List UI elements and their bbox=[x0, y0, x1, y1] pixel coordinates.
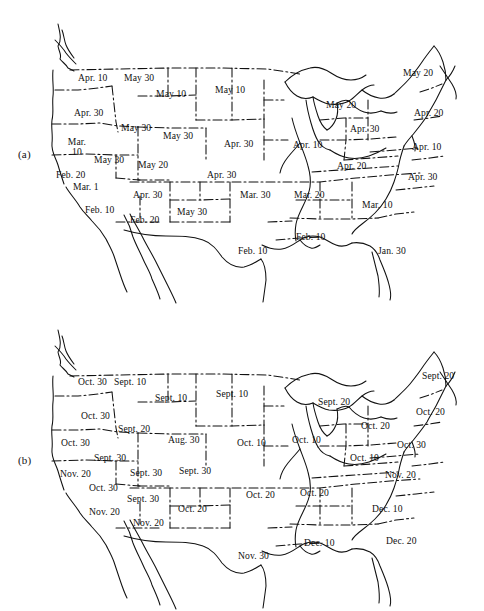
frost-date-label: Sept. 30 bbox=[127, 494, 159, 504]
frost-date-label: Sept. 20 bbox=[118, 424, 150, 434]
frost-date-label: Feb. 10 bbox=[85, 205, 114, 215]
frost-date-label: Apr. 30 bbox=[408, 172, 437, 182]
frost-date-label: May 30 bbox=[121, 123, 151, 133]
frost-date-label: Apr. 10 bbox=[78, 73, 107, 83]
frost-date-label: Apr. 10 bbox=[293, 140, 322, 150]
frost-date-label: Oct. 10 bbox=[350, 453, 379, 463]
frost-date-label: Dec. 10 bbox=[304, 538, 335, 548]
frost-date-label: May 10 bbox=[215, 85, 245, 95]
frost-date-label: Mar. 10 bbox=[362, 200, 393, 210]
frost-date-label: Apr. 30 bbox=[74, 108, 103, 118]
frost-date-label: Mar. 10 bbox=[64, 137, 90, 157]
frost-date-label: Apr. 30 bbox=[224, 139, 253, 149]
frost-date-label: Oct. 30 bbox=[78, 377, 107, 387]
frost-date-label: Feb. 10 bbox=[296, 232, 325, 242]
frost-date-label: Apr. 30 bbox=[207, 170, 236, 180]
frost-date-label: Sept. 10 bbox=[114, 377, 146, 387]
frost-date-label: Sept. 30 bbox=[179, 466, 211, 476]
frost-date-label: Apr. 20 bbox=[337, 161, 366, 171]
frost-date-label: Apr. 10 bbox=[412, 142, 441, 152]
frost-date-label: May 20 bbox=[403, 68, 433, 78]
frost-date-label: Mar. 1 bbox=[73, 182, 99, 192]
frost-date-label: Oct. 20 bbox=[300, 488, 329, 498]
map-panel-a: (a) bbox=[0, 0, 484, 305]
frost-date-label: Oct. 20 bbox=[416, 407, 445, 417]
frost-date-label: Feb. 20 bbox=[56, 170, 85, 180]
frost-date-label: Sept. 20 bbox=[422, 371, 454, 381]
frost-date-label: Jan. 30 bbox=[378, 246, 406, 256]
frost-date-label: May 10 bbox=[156, 89, 186, 99]
map-outline-b bbox=[0, 306, 484, 611]
frost-date-label: Sept. 10 bbox=[216, 389, 248, 399]
frost-date-label: Apr. 30 bbox=[133, 190, 162, 200]
frost-date-label: Oct. 20 bbox=[178, 504, 207, 514]
frost-date-label: Feb. 10 bbox=[238, 246, 267, 256]
frost-date-label: Oct. 10 bbox=[292, 435, 321, 445]
frost-date-label: Oct. 20 bbox=[361, 421, 390, 431]
frost-date-label: May 30 bbox=[124, 73, 154, 83]
frost-date-label: Feb. 20 bbox=[130, 215, 159, 225]
frost-date-label: Sept. 20 bbox=[318, 397, 350, 407]
frost-date-label: May 30 bbox=[177, 207, 207, 217]
frost-date-label: Mar. 30 bbox=[240, 190, 271, 200]
frost-date-label: Nov. 30 bbox=[238, 551, 269, 561]
frost-date-figure: (a) bbox=[0, 0, 484, 611]
frost-date-label: Sept. 30 bbox=[130, 468, 162, 478]
frost-date-label: May 30 bbox=[163, 131, 193, 141]
frost-date-label: Oct. 10 bbox=[237, 438, 266, 448]
frost-date-label: Mar. 20 bbox=[294, 190, 325, 200]
map-panel-b: (b) bbox=[0, 306, 484, 611]
frost-date-label: Oct. 30 bbox=[397, 440, 426, 450]
frost-date-label: Aug. 30 bbox=[168, 435, 200, 445]
frost-date-label: Oct. 30 bbox=[61, 438, 90, 448]
frost-date-label: Nov. 20 bbox=[89, 507, 120, 517]
frost-date-label: May 20 bbox=[138, 160, 168, 170]
frost-date-label: Oct. 20 bbox=[246, 490, 275, 500]
frost-date-label: Sept. 30 bbox=[94, 453, 126, 463]
frost-date-label: May 30 bbox=[94, 155, 124, 165]
frost-date-label: Nov. 20 bbox=[60, 469, 91, 479]
frost-date-label: Oct. 30 bbox=[81, 411, 110, 421]
frost-date-label: Dec. 10 bbox=[372, 504, 403, 514]
frost-date-label: Apr. 20 bbox=[414, 108, 443, 118]
frost-date-label: May 20 bbox=[326, 100, 356, 110]
frost-date-label: Nov. 20 bbox=[133, 518, 164, 528]
frost-date-label: Sept. 10 bbox=[155, 393, 187, 403]
frost-date-label: Oct. 30 bbox=[89, 483, 118, 493]
frost-date-label: Apr. 30 bbox=[350, 124, 379, 134]
frost-date-label: Dec. 20 bbox=[386, 536, 417, 546]
frost-date-label: Nov. 20 bbox=[385, 470, 416, 480]
